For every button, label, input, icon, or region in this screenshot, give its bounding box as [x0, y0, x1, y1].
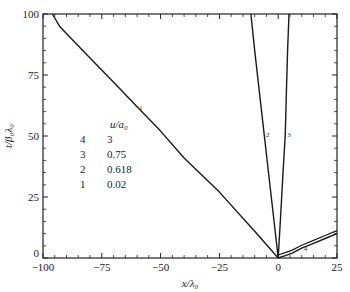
- legend-entry-id: 2: [80, 163, 86, 175]
- y-tick-label: 50: [28, 130, 40, 142]
- series-2-line: [251, 14, 278, 258]
- curve-label-3: 3: [287, 131, 291, 139]
- x-tick-label: −50: [152, 261, 170, 273]
- legend-entry-value: 0.618: [107, 163, 132, 175]
- legend-entry-value: 0.02: [107, 178, 126, 190]
- x-tick-label: 25: [332, 261, 344, 273]
- legend-title: u/a₀: [110, 118, 128, 130]
- series-4-line: [278, 234, 337, 258]
- series-4-upper-line: [278, 231, 337, 255]
- y-tick-label: 100: [23, 8, 40, 20]
- y-axis-label: t/β₀λ₀: [2, 124, 14, 148]
- x-tick-label: −75: [93, 261, 111, 273]
- x-tick-label: −25: [211, 261, 229, 273]
- legend-entry-id: 3: [80, 148, 86, 160]
- x-axis-label: x/λ₀: [181, 277, 199, 289]
- x-tick-label: 0: [275, 261, 281, 273]
- y-tick-label: 0: [34, 247, 40, 259]
- legend-entry-value: 3: [107, 133, 113, 145]
- legend-entry-id: 4: [80, 133, 86, 145]
- axis-ticks: −100−75−50−250250255075100: [23, 8, 344, 273]
- chart: −100−75−50−250250255075100 1234 x/λ₀ t/β…: [0, 0, 350, 292]
- curve-label-4: 4: [304, 245, 308, 253]
- legend: u/a₀ 4330.7520.61810.02: [80, 118, 132, 190]
- legend-entry-value: 0.75: [107, 148, 127, 160]
- y-tick-label: 75: [28, 69, 40, 81]
- plot-frame: [43, 14, 337, 258]
- curve-label-2: 2: [266, 131, 270, 139]
- curve-label-1: 1: [139, 104, 143, 112]
- legend-entry-id: 1: [80, 178, 86, 190]
- data-series: [52, 14, 337, 258]
- series-1-line: [52, 14, 278, 258]
- y-tick-label: 25: [28, 191, 40, 203]
- x-tick-label: −100: [32, 261, 55, 273]
